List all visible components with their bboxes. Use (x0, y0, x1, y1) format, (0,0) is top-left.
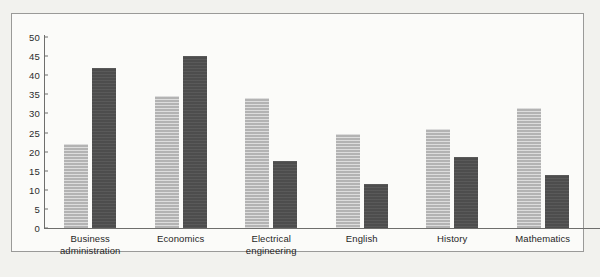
bar (273, 161, 297, 228)
bar (426, 129, 450, 228)
y-axis-tick-mark (44, 208, 48, 209)
bar-group: Businessadministration (45, 0, 136, 229)
y-axis-tick-label: 35 (29, 89, 40, 100)
y-axis-tick-mark (44, 113, 48, 114)
bar (92, 68, 116, 228)
y-axis-tick-mark (44, 37, 48, 38)
bar-groups: BusinessadministrationEconomicsElectrica… (45, 0, 588, 229)
y-axis-tick-label: 30 (29, 108, 40, 119)
bar (454, 157, 478, 228)
y-axis-tick-mark (44, 132, 48, 133)
bar (336, 134, 360, 228)
y-axis-tick-mark (44, 189, 48, 190)
bar (364, 184, 388, 228)
y-axis-tick-mark (44, 170, 48, 171)
y-axis-tick-mark (44, 75, 48, 76)
x-axis-category-label-line: Mathematics (478, 233, 600, 245)
bar (155, 96, 179, 228)
y-axis-tick-label: 5 (35, 203, 40, 214)
y-axis-tick-label: 20 (29, 146, 40, 157)
bar-group: Electricalengineering (226, 0, 317, 229)
x-axis-category-label-line: administration (25, 245, 155, 257)
y-axis-tick-mark (44, 94, 48, 95)
y-axis-tick-label: 10 (29, 184, 40, 195)
y-axis-tick-mark (44, 56, 48, 57)
bar (245, 98, 269, 228)
bar-chart: 05101520253035404550 Businessadministrat… (0, 0, 600, 277)
bar (183, 56, 207, 228)
y-axis-tick-label: 50 (29, 32, 40, 43)
y-axis-tick-label: 15 (29, 165, 40, 176)
bar-group: History (407, 0, 498, 229)
x-axis-category-label-line: engineering (206, 245, 336, 257)
y-axis-tick-label: 0 (35, 223, 40, 234)
bar (545, 175, 569, 228)
y-axis-tick-label: 45 (29, 51, 40, 62)
y-axis-tick-mark (44, 151, 48, 152)
bar-group: Mathematics (498, 0, 589, 229)
y-axis-tick-mark (44, 228, 48, 229)
bar (64, 144, 88, 228)
bar (517, 108, 541, 228)
bar-group: Economics (136, 0, 227, 229)
x-axis-category-label: Mathematics (478, 233, 600, 245)
y-axis-tick-label: 25 (29, 127, 40, 138)
bar-group: English (317, 0, 408, 229)
y-axis-tick-label: 40 (29, 70, 40, 81)
